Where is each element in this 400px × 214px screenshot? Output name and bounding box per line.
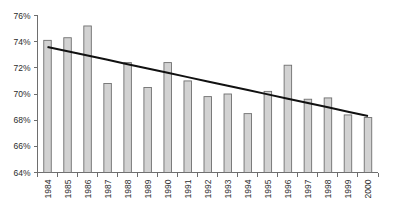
y-tick-label: 66% (13, 141, 30, 151)
x-tick-label: 1987 (103, 179, 113, 198)
bar (304, 99, 312, 172)
bar (264, 91, 272, 172)
x-tick-label: 1989 (143, 179, 153, 198)
bar (344, 115, 352, 173)
bar (164, 63, 172, 173)
bar (364, 118, 372, 173)
bar (244, 114, 252, 173)
chart-background (0, 0, 400, 214)
x-tick-label: 1999 (343, 179, 353, 198)
x-tick-label: 1992 (203, 179, 213, 198)
x-tick-label: 1998 (323, 179, 333, 198)
bar (64, 38, 72, 173)
bar (284, 65, 292, 172)
y-tick-label: 74% (13, 37, 30, 47)
x-tick-label: 1990 (163, 179, 173, 198)
bar (104, 84, 112, 173)
x-tick-label: 1986 (83, 179, 93, 198)
bar (224, 94, 232, 173)
y-tick-label: 68% (13, 115, 30, 125)
x-tick-label: 1993 (223, 179, 233, 198)
x-tick-label: 1985 (63, 179, 73, 198)
bar (84, 26, 92, 173)
y-tick-label: 64% (13, 168, 30, 178)
x-tick-label: 1995 (263, 179, 273, 198)
bar (44, 40, 52, 172)
x-tick-label: 1984 (43, 179, 53, 198)
bar (324, 98, 332, 173)
x-tick-label: 1988 (123, 179, 133, 198)
bar-chart: 64%66%68%70%72%74%76% 198419851986198719… (0, 0, 400, 214)
bar (184, 81, 192, 173)
x-tick-label: 2000 (363, 179, 373, 198)
x-tick-label: 1997 (303, 179, 313, 198)
y-tick-label: 72% (13, 63, 30, 73)
y-tick-label: 76% (13, 11, 30, 21)
bar (144, 87, 152, 172)
y-tick-label: 70% (13, 89, 30, 99)
x-tick-label: 1991 (183, 179, 193, 198)
x-tick-label: 1994 (243, 179, 253, 198)
bar (204, 97, 212, 173)
x-tick-label: 1996 (283, 179, 293, 198)
bar (124, 63, 132, 173)
chart-canvas: 64%66%68%70%72%74%76% 198419851986198719… (0, 0, 400, 214)
